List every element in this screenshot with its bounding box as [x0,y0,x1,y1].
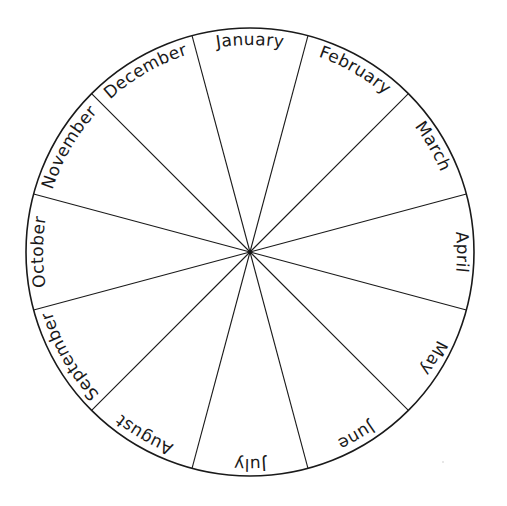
wheel-center-point [248,250,251,253]
wheel-spoke [192,36,250,252]
month-label-october: October [27,215,50,290]
paper-speck [442,461,444,463]
wheel-spoke [34,252,250,310]
wheel-spoke [192,252,250,468]
wheel-spoke [250,252,308,468]
month-label-january: January [213,29,285,52]
month-label-july: July [233,454,268,475]
wheel-spoke [250,94,408,252]
wheel-spoke [250,252,408,410]
month-label-november: November [37,101,100,191]
wheel-spoke [34,194,250,252]
month-label-february: February [317,42,396,99]
month-label-december: December [99,39,189,102]
month-label-september: September [36,310,102,405]
month-label-april: April [452,231,473,274]
month-wheel-diagram: JanuaryFebruaryMarchAprilMayJuneJulyAugu… [0,0,507,506]
wheel-spoke [250,36,308,252]
wheel-spoke [92,252,250,410]
wheel-spoke [250,252,466,310]
wheel-spoke [250,194,466,252]
wheel-spoke [92,94,250,252]
month-label-march: March [411,117,455,174]
